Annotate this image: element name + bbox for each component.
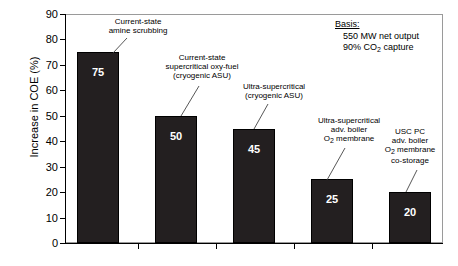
basis-note: Basis: 550 MW net output 90% CO2 capture	[333, 19, 443, 55]
basis-co2-suffix: capture	[381, 42, 414, 52]
bar-chart: Increase in COE (%) 0 10 20 30 40 50 60 …	[0, 0, 458, 266]
basis-co2-prefix: 90% CO	[343, 42, 377, 52]
basis-line-1: 550 MW net output	[343, 31, 443, 43]
basis-line-2: 90% CO2 capture	[343, 42, 443, 55]
basis-heading: Basis:	[335, 19, 443, 31]
